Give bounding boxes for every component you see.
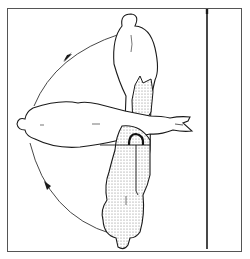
arrow-up-icon [44,181,51,190]
arm-rotation-diagram [0,0,250,259]
diagram-canvas [0,0,250,259]
motion-arc-lower [30,143,112,234]
arm-horizontal [17,102,192,148]
motion-arc-upper [34,34,120,106]
